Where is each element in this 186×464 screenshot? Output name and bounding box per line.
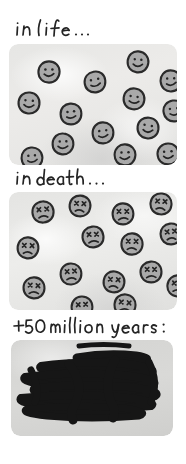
face-dead bbox=[70, 295, 95, 310]
face-dead bbox=[158, 221, 177, 247]
face-dead bbox=[22, 276, 47, 301]
face-alive bbox=[125, 49, 151, 75]
face-dead bbox=[119, 231, 144, 256]
face-alive bbox=[158, 68, 177, 94]
face-dead bbox=[165, 273, 177, 299]
caption-in-life: in life... bbox=[13, 16, 105, 42]
panel-fifty-million-years bbox=[11, 340, 173, 436]
face-alive bbox=[135, 115, 162, 142]
panel-in-life bbox=[9, 44, 177, 165]
oil-scribble bbox=[11, 340, 173, 436]
face-alive bbox=[161, 98, 177, 125]
face-dead bbox=[67, 193, 93, 219]
face-alive bbox=[16, 90, 42, 116]
face-dead bbox=[148, 192, 174, 217]
panel-in-death bbox=[9, 192, 177, 310]
face-alive bbox=[156, 142, 177, 165]
face-dead bbox=[110, 201, 135, 226]
face-alive bbox=[19, 145, 45, 165]
comic-page: in life... bbox=[0, 0, 186, 464]
caption-fifty-million-years: +50 million years: bbox=[12, 313, 172, 341]
face-alive bbox=[121, 86, 147, 112]
face-alive bbox=[37, 60, 61, 84]
face-dead bbox=[80, 224, 106, 250]
face-dead bbox=[15, 235, 41, 261]
face-alive bbox=[58, 101, 83, 126]
face-alive bbox=[90, 120, 116, 146]
face-alive bbox=[113, 143, 138, 165]
face-alive bbox=[50, 131, 75, 156]
face-alive bbox=[81, 68, 108, 95]
face-dead bbox=[138, 259, 163, 284]
face-dead bbox=[58, 261, 84, 287]
face-dead bbox=[112, 292, 138, 310]
caption-in-death: in death... bbox=[13, 165, 118, 191]
face-dead bbox=[30, 199, 56, 225]
